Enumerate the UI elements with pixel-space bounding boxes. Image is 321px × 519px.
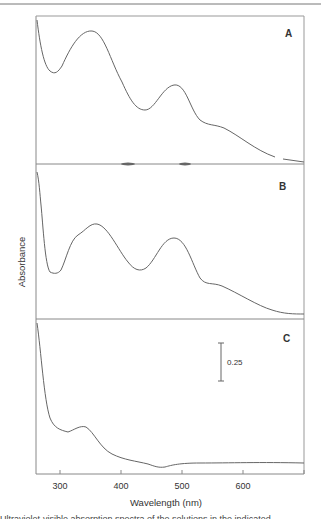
curve-b <box>37 172 304 314</box>
x-ticks <box>60 470 304 474</box>
scale-bar-label: 0.25 <box>227 358 243 367</box>
figure-caption-fragment: Ultraviolet-visible absorption spectra o… <box>0 512 321 519</box>
x-tick-label-500: 500 <box>174 481 189 491</box>
panel-label-c: C <box>283 333 290 344</box>
x-tick-label-400: 400 <box>113 481 128 491</box>
smudge <box>179 163 191 166</box>
panel-label-b: B <box>279 181 286 192</box>
panel-label-a: A <box>285 28 292 39</box>
y-axis-title: Absorbance <box>16 237 27 288</box>
x-axis-title: Wavelength (nm) <box>130 497 202 508</box>
curve-a <box>37 20 275 157</box>
curve-c <box>37 323 304 467</box>
curve-a-tail <box>283 159 304 162</box>
scale-bar <box>218 343 224 381</box>
spectra-figure: A B C 0.25 300 400 500 600 Wavelength (n… <box>0 0 321 519</box>
divider-a-b <box>36 163 304 166</box>
x-tick-label-600: 600 <box>235 481 250 491</box>
smudge <box>121 163 135 166</box>
x-tick-label-300: 300 <box>52 481 67 491</box>
